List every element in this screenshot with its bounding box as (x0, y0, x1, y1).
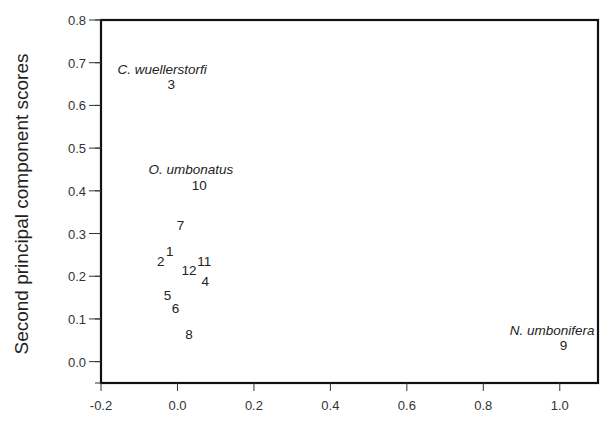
x-tick-label: 0.6 (398, 398, 416, 413)
data-point-label: 5 (164, 288, 172, 303)
y-tick-label: 0.8 (68, 13, 86, 28)
data-point-label: 7 (177, 218, 185, 233)
species-label: N. umbonifera (510, 323, 595, 338)
species-annotations: C. wuellerstorfiO. umbonatusN. umbonifer… (118, 62, 595, 338)
data-point-label: 11 (197, 254, 211, 269)
data-point-label: 2 (157, 254, 165, 269)
data-point-label: 9 (560, 338, 568, 353)
x-tick-label: 1.0 (551, 398, 569, 413)
data-point-label: 8 (185, 327, 193, 342)
y-tick-label: 0.0 (68, 355, 86, 370)
y-tick-label: 0.7 (68, 56, 86, 71)
data-point-label: 1 (166, 244, 174, 259)
x-tick-label: 0.0 (168, 398, 186, 413)
x-tick-label: 0.8 (474, 398, 492, 413)
y-tick-label: 0.3 (68, 227, 86, 242)
data-point-label: 3 (168, 77, 176, 92)
data-point-label: 4 (202, 274, 210, 289)
species-label: C. wuellerstorfi (118, 62, 208, 77)
scatter-plot: -0.20.00.20.40.60.81.00.00.10.20.30.40.5… (0, 0, 613, 447)
data-point-label: 6 (172, 301, 180, 316)
data-point-label: 12 (181, 263, 196, 278)
y-tick-label: 0.4 (68, 184, 86, 199)
y-tick-label: 0.6 (68, 98, 86, 113)
x-tick-label: -0.2 (90, 398, 112, 413)
x-tick-label: 0.4 (321, 398, 339, 413)
y-tick-label: 0.5 (68, 141, 86, 156)
data-point-label: 10 (192, 178, 207, 193)
data-points: 123456789101112 (157, 77, 567, 352)
y-tick-label: 0.1 (68, 312, 86, 327)
y-tick-label: 0.2 (68, 269, 86, 284)
x-tick-label: 0.2 (245, 398, 263, 413)
species-label: O. umbonatus (148, 162, 233, 177)
